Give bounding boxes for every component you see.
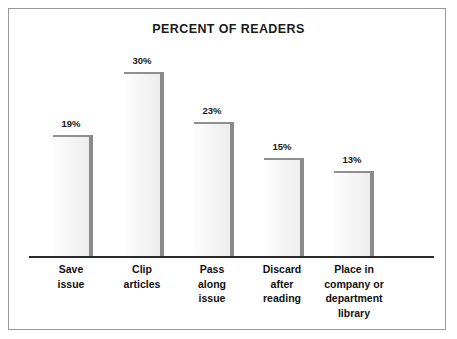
- category-label-line: Place in: [312, 262, 396, 277]
- category-label-pass-along-issue: Pass along issue: [174, 262, 250, 306]
- category-label-line: library: [312, 306, 396, 321]
- category-label-line: articles: [104, 277, 180, 292]
- category-label-line: reading: [244, 291, 320, 306]
- category-label-line: issue: [174, 291, 250, 306]
- bar-value-label: 19%: [53, 118, 89, 129]
- category-label-line: issue: [33, 277, 109, 292]
- category-label-line: company or: [312, 277, 396, 292]
- bar-pass-along-issue[interactable]: [194, 122, 230, 256]
- plot-area: 19% Save issue 30% Clip articles 23% Pas…: [0, 0, 457, 339]
- bar-place-in-company-library[interactable]: [334, 171, 370, 256]
- category-label-place-in-company-library: Place in company or department library: [312, 262, 396, 320]
- category-label-save-issue: Save issue: [33, 262, 109, 291]
- bar-save-issue[interactable]: [53, 135, 89, 256]
- x-axis-line: [29, 256, 434, 258]
- chart-screenshot: PERCENT OF READERS 19% Save issue 30% Cl…: [0, 0, 457, 339]
- category-label-clip-articles: Clip articles: [104, 262, 180, 291]
- bar-clip-articles[interactable]: [124, 72, 160, 256]
- category-label-line: department: [312, 291, 396, 306]
- category-label-line: after: [244, 277, 320, 292]
- bar-value-label: 13%: [334, 154, 370, 165]
- category-label-discard-after-reading: Discard after reading: [244, 262, 320, 306]
- category-label-line: Save: [33, 262, 109, 277]
- bar-value-label: 23%: [194, 105, 230, 116]
- category-label-line: Clip: [104, 262, 180, 277]
- bar-value-label: 30%: [124, 55, 160, 66]
- category-label-line: Discard: [244, 262, 320, 277]
- bar-discard-after-reading[interactable]: [264, 158, 300, 256]
- bar-value-label: 15%: [264, 141, 300, 152]
- category-label-line: along: [174, 277, 250, 292]
- category-label-line: Pass: [174, 262, 250, 277]
